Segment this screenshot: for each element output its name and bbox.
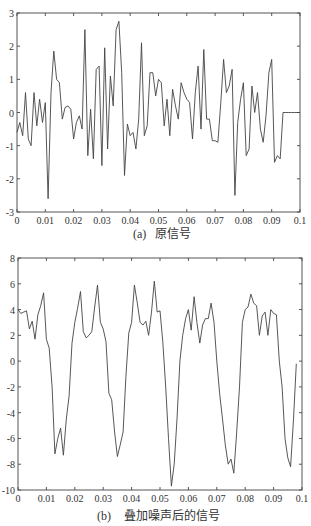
plot-b-caption-text: 叠加噪声后的信号: [124, 508, 220, 523]
plot-b-y-ticks: 86420-2-4-6-8-10: [2, 253, 302, 496]
x-tick-label: 0.1: [296, 493, 309, 504]
plot-a-caption-label: (a): [133, 227, 146, 241]
x-tick-label: 0.07: [208, 493, 226, 504]
y-tick-label: 0: [9, 108, 14, 119]
plot-b-x-ticks: 00.010.020.030.040.050.060.070.080.090.1: [16, 258, 309, 504]
y-tick-label: 2: [10, 330, 15, 341]
y-tick-label: -4: [7, 408, 15, 419]
x-tick-label: 0.06: [178, 215, 196, 226]
x-tick-label: 0.04: [123, 493, 141, 504]
x-tick-label: 0.02: [66, 493, 84, 504]
plot-a-caption-text: 原信号: [155, 227, 191, 241]
y-tick-label: 8: [10, 253, 15, 264]
y-tick-label: -3: [6, 207, 14, 218]
plot-original-signal: 00.010.020.030.040.050.060.070.080.090.1…: [6, 8, 307, 241]
plot-b-caption-label: (b): [97, 509, 111, 523]
y-tick-label: -10: [2, 485, 15, 496]
x-tick-label: 0.08: [236, 493, 254, 504]
x-tick-label: 0.02: [65, 215, 83, 226]
y-tick-label: 4: [10, 305, 15, 316]
x-tick-label: 0.09: [265, 493, 283, 504]
x-tick-label: 0.06: [180, 493, 198, 504]
x-tick-label: 0.05: [150, 215, 168, 226]
x-tick-label: 0.1: [294, 215, 307, 226]
plot-noisy-signal: 00.010.020.030.040.050.060.070.080.090.1…: [2, 253, 309, 523]
y-tick-label: 1: [9, 74, 14, 85]
y-tick-label: -8: [7, 459, 15, 470]
y-tick-label: 2: [9, 41, 14, 52]
y-tick-label: -1: [6, 141, 14, 152]
plot-b-series-line: [18, 281, 296, 486]
y-tick-label: -2: [7, 382, 15, 393]
plot-b-frame: [18, 258, 302, 490]
y-tick-label: -2: [6, 174, 14, 185]
x-tick-label: 0.09: [263, 215, 281, 226]
plot-a-y-ticks: 3210-1-2-3: [6, 8, 300, 218]
y-tick-label: -6: [7, 433, 15, 444]
x-tick-label: 0.03: [93, 215, 111, 226]
y-tick-label: 3: [9, 8, 14, 19]
x-tick-label: 0.04: [121, 215, 139, 226]
plot-a-frame: [17, 13, 300, 212]
x-tick-label: 0.07: [206, 215, 224, 226]
plot-a-series-line: [17, 21, 300, 198]
y-tick-label: 0: [10, 356, 15, 367]
x-tick-label: 0.08: [235, 215, 253, 226]
x-tick-label: 0: [15, 215, 20, 226]
x-tick-label: 0: [16, 493, 21, 504]
figure: 00.010.020.030.040.050.060.070.080.090.1…: [0, 0, 311, 526]
x-tick-label: 0.01: [38, 493, 56, 504]
y-tick-label: 6: [10, 279, 15, 290]
x-tick-label: 0.05: [151, 493, 169, 504]
x-tick-label: 0.01: [37, 215, 55, 226]
x-tick-label: 0.03: [94, 493, 112, 504]
plot-a-x-ticks: 00.010.020.030.040.050.060.070.080.090.1: [15, 13, 307, 226]
